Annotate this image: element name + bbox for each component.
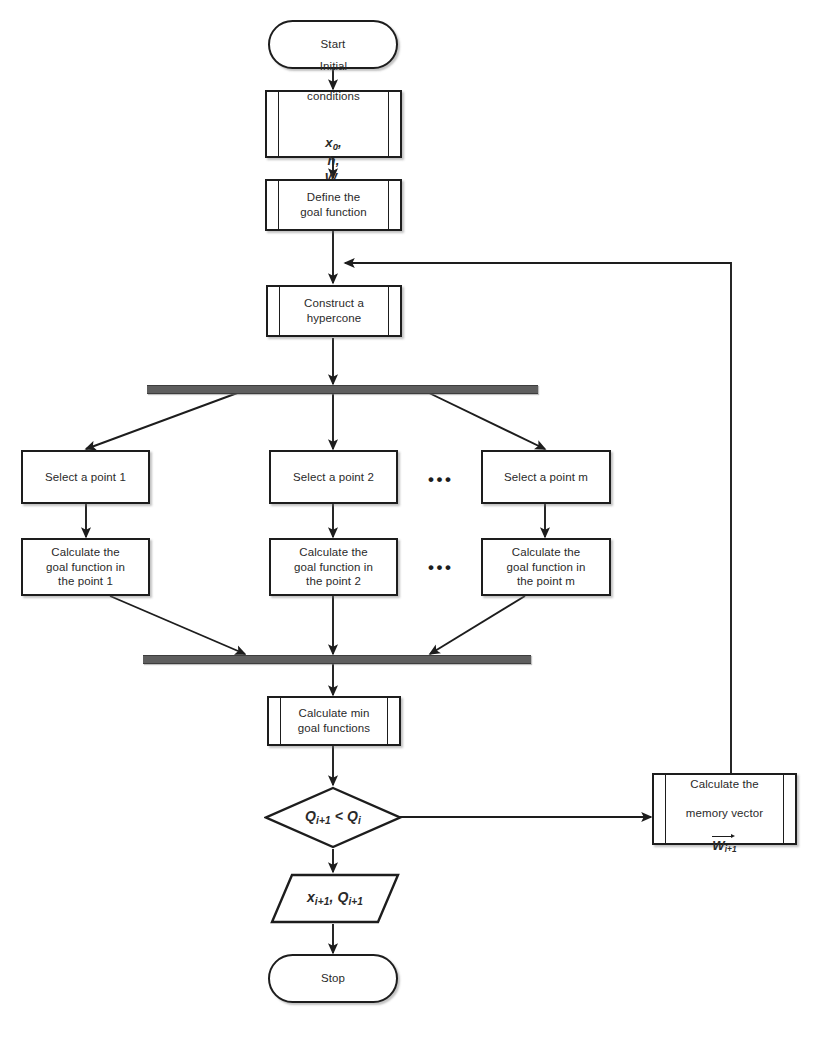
decision-q-right: Q <box>347 808 358 824</box>
node-select-point-m[interactable]: Select a point m <box>481 450 611 504</box>
output-x: x <box>307 889 315 905</box>
edge-calc1-to-join <box>110 596 245 654</box>
memory-vector-w-sub: i+1 <box>725 845 737 854</box>
node-select-point-2-label: Select a point 2 <box>271 470 396 485</box>
decision-q-left-sub: i+1 <box>316 814 331 825</box>
node-select-point-2[interactable]: Select a point 2 <box>269 450 398 504</box>
node-initial-conditions[interactable]: Initial conditions x0, h, W0 <box>265 90 402 158</box>
fork-bar <box>147 385 538 394</box>
node-decision-q-compare-label: Qi+1 < Qi <box>264 808 402 828</box>
node-calculate-min-goal-functions[interactable]: Calculate min goal functions <box>267 696 401 746</box>
memory-vector-w: W <box>712 838 724 853</box>
memory-vector-line2: memory vector <box>686 807 763 819</box>
node-calculate-goal-point-m[interactable]: Calculate the goal function in the point… <box>481 538 611 596</box>
node-calculate-goal-point-2[interactable]: Calculate the goal function in the point… <box>269 538 398 596</box>
node-calculate-goal-point-m-label: Calculate the goal function in the point… <box>483 545 609 589</box>
node-calculate-min-goal-functions-label: Calculate min goal functions <box>269 706 399 735</box>
node-select-point-1[interactable]: Select a point 1 <box>21 450 150 504</box>
node-decision-q-compare[interactable]: Qi+1 < Qi <box>264 786 402 849</box>
memory-vector-line1: Calculate the <box>690 778 758 790</box>
decision-q-left: Q <box>305 808 316 824</box>
flowchart-canvas: Start Initial conditions x0, h, W0 Defin… <box>0 0 820 1043</box>
node-output-values-label: xi+1, Qi+1 <box>270 889 400 909</box>
memory-vector-symbol: Wi+1 <box>712 836 736 856</box>
output-q-sub: i+1 <box>348 895 363 906</box>
node-stop[interactable]: Stop <box>268 954 398 1003</box>
edge-calcm-to-join <box>430 596 525 654</box>
node-construct-hypercone[interactable]: Construct a hypercone <box>266 285 402 337</box>
decision-q-right-sub: i <box>358 814 361 825</box>
ellipsis-calculate-row: ••• <box>428 559 453 576</box>
node-calculate-memory-vector[interactable]: Calculate the memory vector Wi+1 <box>652 773 797 845</box>
node-define-goal-function[interactable]: Define the goal function <box>265 179 402 231</box>
edge-fork-to-select1 <box>86 392 240 449</box>
initial-conditions-line2: conditions <box>307 90 360 102</box>
node-calculate-goal-point-1[interactable]: Calculate the goal function in the point… <box>21 538 150 596</box>
node-output-values[interactable]: xi+1, Qi+1 <box>270 873 400 924</box>
vector-arrow-icon <box>712 836 731 837</box>
node-calculate-goal-point-1-label: Calculate the goal function in the point… <box>23 545 148 589</box>
edge-fork-to-selectm <box>427 392 545 449</box>
ellipsis-calculate-row-label: ••• <box>428 558 453 577</box>
initial-conditions-x-sub: 0 <box>333 141 338 151</box>
node-select-point-m-label: Select a point m <box>483 470 609 485</box>
join-bar <box>143 655 531 664</box>
node-construct-hypercone-label: Construct a hypercone <box>268 296 400 325</box>
initial-conditions-line1: Initial <box>320 60 348 72</box>
node-select-point-1-label: Select a point 1 <box>23 470 148 485</box>
node-stop-label: Stop <box>270 971 396 986</box>
output-q: Q <box>337 889 348 905</box>
edge-layer <box>0 0 820 1043</box>
initial-conditions-x: x <box>325 135 332 150</box>
node-define-goal-function-label: Define the goal function <box>267 190 400 219</box>
initial-conditions-h: h <box>328 153 336 168</box>
output-x-sub: i+1 <box>315 895 330 906</box>
node-calculate-goal-point-2-label: Calculate the goal function in the point… <box>271 545 396 589</box>
node-calculate-memory-vector-label: Calculate the memory vector Wi+1 <box>654 762 795 856</box>
edge-memory-feedback-to-construct <box>345 263 731 775</box>
ellipsis-select-row: ••• <box>428 471 453 488</box>
decision-operator: < <box>331 808 347 824</box>
ellipsis-select-row-label: ••• <box>428 470 453 489</box>
